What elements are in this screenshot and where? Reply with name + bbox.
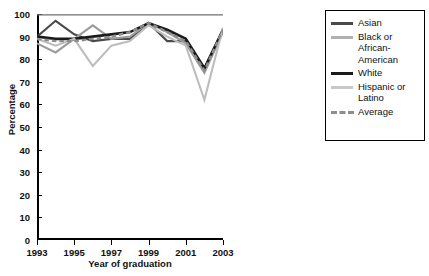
y-tick-label: 10 [19, 213, 30, 222]
legend-item[interactable]: White [331, 67, 420, 79]
x-tick-mark [223, 240, 224, 245]
x-axis-title: Year of graduation [37, 258, 223, 269]
y-tick-label: 80 [19, 55, 30, 64]
legend-label: Black or African- American [358, 31, 398, 66]
y-tick-label: 30 [19, 168, 30, 177]
series-line [37, 23, 223, 73]
chart-figure: 0102030405060708090100 Percentage 199319… [0, 0, 429, 276]
plot-area [37, 14, 223, 240]
y-tick-label: 50 [19, 123, 30, 132]
y-tick-label: 100 [14, 10, 30, 19]
legend-swatch [331, 22, 353, 25]
x-tick-label: 2003 [212, 247, 233, 258]
x-tick-label: 1999 [138, 247, 159, 258]
legend-swatch [331, 72, 353, 75]
y-axis-title: Percentage [6, 70, 17, 150]
x-tick-label: 1995 [64, 247, 85, 258]
x-tick-label: 1997 [101, 247, 122, 258]
y-tick-label: 40 [19, 145, 30, 154]
x-tick-mark [74, 240, 75, 245]
legend-item[interactable]: Asian [331, 17, 420, 29]
legend-swatch [331, 111, 353, 117]
legend-label: Hispanic or Latino [358, 81, 406, 104]
legend: AsianBlack or African- AmericanWhiteHisp… [325, 10, 425, 141]
x-tick-mark [186, 240, 187, 245]
y-tick-label: 60 [19, 100, 30, 109]
series-canvas [37, 14, 223, 240]
legend-item[interactable]: Hispanic or Latino [331, 81, 420, 104]
legend-label: White [358, 67, 382, 79]
x-tick-label: 1993 [26, 247, 47, 258]
x-tick-mark [149, 240, 150, 245]
legend-swatch [331, 86, 353, 89]
y-tick-label: 20 [19, 190, 30, 199]
legend-item[interactable]: Black or African- American [331, 31, 420, 66]
legend-swatch [331, 36, 353, 39]
y-tick-label: 70 [19, 77, 30, 86]
legend-label: Asian [358, 17, 382, 29]
legend-label: Average [358, 106, 393, 118]
x-tick-mark [37, 240, 38, 245]
x-tick-label: 2001 [175, 247, 196, 258]
x-tick-mark [111, 240, 112, 245]
legend-item[interactable]: Average [331, 106, 420, 118]
y-tick-label: 90 [19, 32, 30, 41]
